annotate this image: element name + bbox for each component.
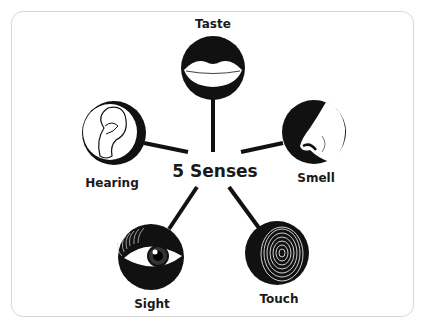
connector-hearing	[144, 143, 188, 152]
connector-sight	[169, 187, 197, 229]
label-taste: Taste	[195, 17, 231, 31]
label-sight: Sight	[134, 297, 170, 311]
eye-icon	[118, 224, 185, 290]
label-smell: Smell	[297, 171, 335, 185]
nose-icon	[282, 100, 346, 164]
label-touch: Touch	[259, 292, 298, 306]
fingerprint-icon	[245, 221, 309, 285]
label-hearing: Hearing	[85, 176, 138, 190]
connector-touch	[229, 187, 259, 228]
center-title: 5 Senses	[172, 161, 257, 181]
ear-icon	[82, 101, 146, 165]
lips-icon	[181, 36, 245, 100]
connector-smell	[241, 143, 283, 152]
